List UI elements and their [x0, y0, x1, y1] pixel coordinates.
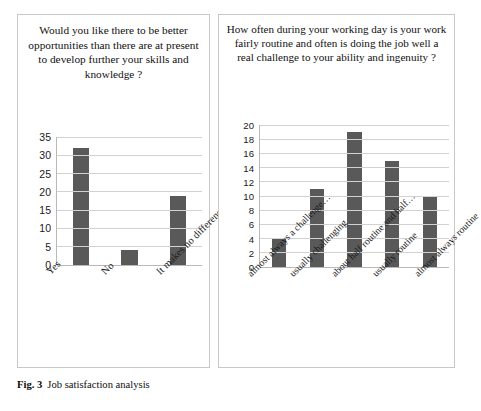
gridline	[260, 196, 449, 197]
gridline	[260, 181, 449, 182]
x-label-slot: about half routine and half…	[329, 269, 371, 369]
x-label-slot: Yes	[44, 267, 99, 367]
y-tick-label: 12	[243, 176, 254, 187]
gridline	[260, 210, 449, 211]
y-tick-label: 5	[45, 241, 51, 253]
y-tick-label: 20	[243, 120, 254, 131]
gridline	[57, 137, 202, 138]
x-axis-labels-left: YesNoIt makes no difference…	[44, 267, 209, 367]
y-axis-labels-right: 02468101214161820	[233, 125, 257, 267]
y-tick-label: 8	[249, 205, 254, 216]
chart-panel-right: How often during your working day is you…	[218, 14, 455, 368]
gridline	[57, 191, 202, 192]
x-axis-labels-right: almost always a challenge…usually challe…	[245, 269, 454, 369]
bar	[73, 148, 89, 265]
gridline	[57, 173, 202, 174]
chart-panel-left: Would you like there to be better opport…	[17, 14, 210, 368]
figure-caption: Fig. 3Job satisfaction analysis	[17, 379, 150, 390]
x-label-slot: It makes no difference…	[154, 267, 209, 367]
y-tick-label: 2	[249, 247, 254, 258]
x-label-slot: almost always a challenge…	[245, 269, 287, 369]
y-tick-label: 20	[39, 186, 51, 198]
gridline	[260, 167, 449, 168]
gridline	[57, 228, 202, 229]
y-tick-label: 10	[243, 191, 254, 202]
y-tick-label: 30	[39, 149, 51, 161]
gridline	[57, 265, 202, 266]
figure-caption-text: Job satisfaction analysis	[47, 379, 149, 390]
y-axis-labels-left: 05101520253035	[30, 137, 54, 265]
y-tick-label: 6	[249, 219, 254, 230]
y-tick-label: 35	[39, 131, 51, 143]
gridline	[260, 139, 449, 140]
gridline	[57, 210, 202, 211]
x-label-slot: No	[99, 267, 154, 367]
chart-panels: Would you like there to be better opport…	[17, 14, 455, 368]
bar	[121, 250, 137, 265]
x-label-slot: usually challenging	[287, 269, 329, 369]
gridline	[260, 224, 449, 225]
gridline	[260, 153, 449, 154]
gridline	[57, 155, 202, 156]
chart-title-left: Would you like there to be better opport…	[24, 23, 203, 82]
y-tick-label: 4	[249, 233, 254, 244]
y-tick-label: 10	[39, 222, 51, 234]
y-tick-label: 15	[39, 204, 51, 216]
y-tick-label: 25	[39, 168, 51, 180]
y-tick-label: 16	[243, 148, 254, 159]
gridline	[260, 125, 449, 126]
x-label-slot: almost always routine	[412, 269, 454, 369]
chart-title-right: How often during your working day is you…	[225, 22, 448, 65]
y-tick-label: 14	[243, 162, 254, 173]
plot-area-right: 02468101214161820	[233, 125, 449, 267]
y-tick-label: 18	[243, 134, 254, 145]
x-label-slot: usually routine	[370, 269, 412, 369]
figure-number: Fig. 3	[17, 379, 42, 390]
